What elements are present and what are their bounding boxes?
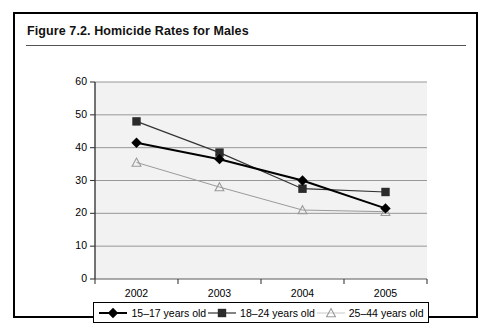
chart-area: 0102030405060 2002200320042005 15–17 yea…	[15, 50, 476, 316]
data-point-marker	[298, 185, 306, 193]
x-axis-tick-label: 2003	[190, 287, 250, 299]
data-point-marker	[218, 308, 226, 316]
legend-item: 15–17 years old	[98, 306, 206, 320]
legend-item-label: 25–44 years old	[349, 307, 424, 319]
x-axis-tick-label: 2005	[356, 287, 416, 299]
legend-item-label: 15–17 years old	[131, 307, 206, 319]
chart-legend: 15–17 years old18–24 years old25–44 year…	[93, 302, 429, 323]
legend-marker-square-filled	[207, 306, 237, 320]
figure-title: Figure 7.2. Homicide Rates for Males	[27, 24, 249, 38]
y-axis-tick-label: 60	[61, 75, 87, 87]
data-point-marker	[297, 175, 307, 185]
data-series-layer	[131, 117, 390, 215]
series-line	[137, 121, 386, 192]
legend-item: 18–24 years old	[207, 306, 315, 320]
data-point-marker	[108, 307, 118, 317]
y-axis-tick-label: 20	[61, 206, 87, 218]
data-point-marker	[132, 158, 141, 166]
legend-item-label: 18–24 years old	[240, 307, 315, 319]
y-axis-tick-label: 10	[61, 239, 87, 251]
x-axis-tick-label: 2002	[107, 287, 167, 299]
legend-marker-triangle-open	[316, 306, 346, 320]
gridlines	[95, 82, 427, 279]
legend-item: 25–44 years old	[316, 306, 424, 320]
data-point-marker	[131, 138, 141, 148]
figure-frame: Figure 7.2. Homicide Rates for Males 010…	[13, 12, 478, 318]
data-point-marker	[381, 188, 389, 196]
y-axis-tick-label: 30	[61, 174, 87, 186]
title-divider	[26, 45, 466, 46]
legend-marker-diamond-filled	[98, 306, 128, 320]
data-point-marker	[132, 117, 140, 125]
y-axis-tick-label: 40	[61, 141, 87, 153]
axes	[90, 82, 427, 284]
y-axis-tick-label: 0	[61, 272, 87, 284]
y-axis-tick-label: 50	[61, 108, 87, 120]
x-axis-tick-label: 2004	[273, 287, 333, 299]
